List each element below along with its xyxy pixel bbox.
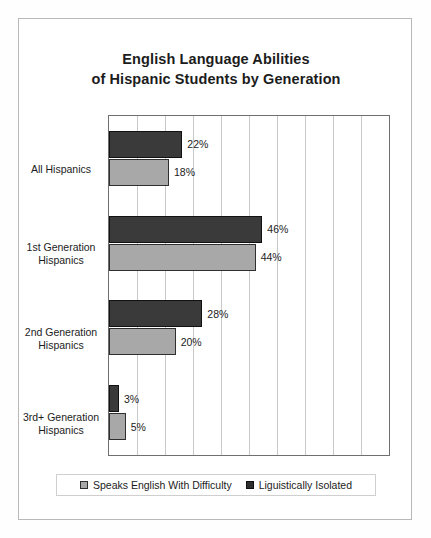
legend-item-liguistically-isolated: Liguistically Isolated bbox=[246, 479, 352, 491]
gridline bbox=[305, 116, 306, 455]
bar-value-label: 20% bbox=[181, 336, 202, 348]
gridline bbox=[221, 116, 222, 455]
bar-value-label: 28% bbox=[207, 308, 228, 320]
plot-area: 22%18%46%44%28%20%3%5% bbox=[108, 115, 390, 456]
gridline bbox=[361, 116, 362, 455]
category-label-line: Hispanics bbox=[19, 424, 103, 437]
chart-frame: English Language Abilities of Hispanic S… bbox=[18, 18, 412, 520]
chart-title-line-1: English Language Abilities bbox=[19, 49, 413, 69]
category-label-line: 1st Generation bbox=[19, 241, 103, 254]
category-label-all-hispanics: All Hispanics bbox=[19, 163, 103, 176]
category-label-3rd-generation: 3rd+ Generation Hispanics bbox=[19, 411, 103, 437]
bar-value-label: 3% bbox=[124, 393, 139, 405]
bar-value-label: 44% bbox=[261, 251, 282, 263]
gridline bbox=[277, 116, 278, 455]
bar-dark-4 bbox=[109, 385, 119, 412]
category-label-line: 3rd+ Generation bbox=[19, 411, 103, 424]
bar-light-2 bbox=[109, 244, 256, 271]
bar-light-1 bbox=[109, 159, 169, 186]
bar-light-4 bbox=[109, 413, 126, 440]
bar-value-label: 46% bbox=[267, 223, 288, 235]
legend-swatch-icon bbox=[80, 481, 88, 489]
bar-value-label: 5% bbox=[131, 421, 146, 433]
legend-label: Speaks English With Difficulty bbox=[93, 479, 232, 491]
category-label-line: All Hispanics bbox=[19, 163, 103, 176]
bar-value-label: 18% bbox=[174, 166, 195, 178]
gridline bbox=[249, 116, 250, 455]
bar-value-label: 22% bbox=[187, 138, 208, 150]
chart-title: English Language Abilities of Hispanic S… bbox=[19, 49, 413, 89]
chart-title-line-2: of Hispanic Students by Generation bbox=[19, 69, 413, 89]
bar-dark-2 bbox=[109, 216, 262, 243]
legend-item-speaks-english-with-difficulty: Speaks English With Difficulty bbox=[80, 479, 232, 491]
bar-dark-3 bbox=[109, 300, 202, 327]
chart-legend: Speaks English With Difficulty Liguistic… bbox=[56, 474, 376, 496]
category-label-1st-generation: 1st Generation Hispanics bbox=[19, 241, 103, 267]
gridline bbox=[333, 116, 334, 455]
chart-page: English Language Abilities of Hispanic S… bbox=[0, 0, 431, 538]
category-label-2nd-generation: 2nd Generation Hispanics bbox=[19, 326, 103, 352]
bar-dark-1 bbox=[109, 131, 182, 158]
category-label-line: Hispanics bbox=[19, 254, 103, 267]
category-label-line: 2nd Generation bbox=[19, 326, 103, 339]
legend-label: Liguistically Isolated bbox=[259, 479, 352, 491]
category-label-line: Hispanics bbox=[19, 339, 103, 352]
bar-light-3 bbox=[109, 328, 176, 355]
legend-swatch-icon bbox=[246, 481, 254, 489]
